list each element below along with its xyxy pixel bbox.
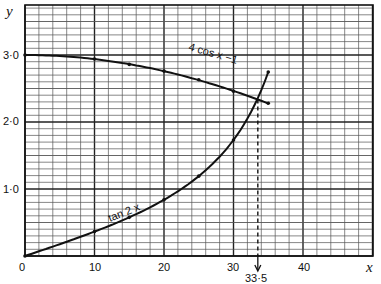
data-point [162, 69, 166, 73]
data-point [232, 89, 236, 93]
y-tick-2: 2·0 [3, 115, 19, 127]
data-point [162, 198, 166, 202]
data-point [23, 53, 27, 57]
data-point [23, 254, 27, 258]
x-axis-label: x [365, 259, 373, 275]
data-point [93, 57, 97, 61]
tan-curve [25, 72, 268, 256]
intersection-value-label: 33·5 [245, 272, 267, 284]
data-point [232, 138, 236, 142]
data-point [127, 63, 131, 67]
x-tick-30: 30 [227, 261, 239, 273]
y-axis-label: y [4, 3, 13, 19]
data-point [266, 70, 270, 74]
y-tick-1: 1·0 [3, 183, 19, 195]
x-tick-0: 0 [19, 261, 25, 273]
data-point [266, 101, 270, 105]
x-tick-20: 20 [158, 261, 170, 273]
chart: y x 3·0 2·0 1·0 0 10 20 30 40 33·5 4 cos… [0, 0, 381, 284]
data-point [93, 230, 97, 234]
data-point [197, 78, 201, 82]
data-point [197, 174, 201, 178]
x-tick-10: 10 [89, 261, 101, 273]
y-tick-3: 3·0 [3, 49, 19, 61]
x-tick-40: 40 [298, 261, 310, 273]
